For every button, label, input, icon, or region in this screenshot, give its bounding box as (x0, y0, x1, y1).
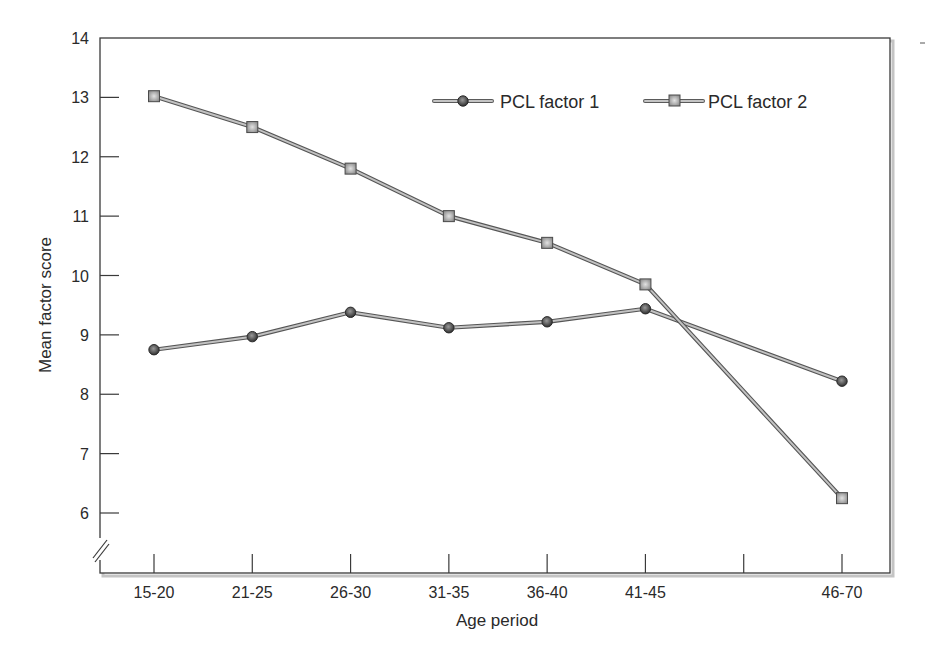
data-point-circle (345, 307, 355, 317)
legend-label: PCL factor 1 (500, 92, 599, 112)
y-tick-label: 11 (72, 208, 89, 225)
data-point-square (837, 493, 848, 504)
data-point-circle (837, 376, 847, 386)
x-tick-label: 46-70 (822, 584, 863, 601)
data-point-circle (542, 317, 552, 327)
data-point-square (443, 211, 454, 222)
data-point-circle (149, 345, 159, 355)
line-chart: 67891011121314 15-2021-2526-3031-3536-40… (0, 0, 926, 660)
y-tick-label: 12 (71, 149, 89, 166)
y-axis-title: Mean factor score (36, 237, 55, 373)
data-point-circle (640, 304, 650, 314)
data-point-square (640, 279, 651, 290)
y-tick-label: 7 (80, 446, 89, 463)
circle-marker-icon (458, 96, 468, 106)
data-point-square (542, 237, 553, 248)
data-point-circle (247, 331, 257, 341)
x-tick-label: 21-25 (232, 584, 273, 601)
data-point-circle (444, 323, 454, 333)
x-tick-label: 26-30 (330, 584, 371, 601)
y-tick-label: 9 (80, 327, 89, 344)
y-tick-label: 10 (71, 268, 89, 285)
y-tick-label: 13 (71, 89, 89, 106)
x-axis-title: Age period (456, 611, 538, 630)
legend-label: PCL factor 2 (708, 92, 807, 112)
square-marker-icon (669, 95, 680, 106)
x-tick-label: 31-35 (428, 584, 469, 601)
y-tick-label: 6 (80, 505, 89, 522)
x-tick-label: 36-40 (527, 584, 568, 601)
y-axis-break-icon (92, 538, 109, 562)
y-tick-label: 14 (71, 30, 89, 47)
x-tick-label: 15-20 (134, 584, 175, 601)
x-tick-label: 41-45 (625, 584, 666, 601)
data-point-square (149, 91, 160, 102)
data-point-square (345, 163, 356, 174)
data-point-square (247, 122, 258, 133)
y-tick-label: 8 (80, 386, 89, 403)
